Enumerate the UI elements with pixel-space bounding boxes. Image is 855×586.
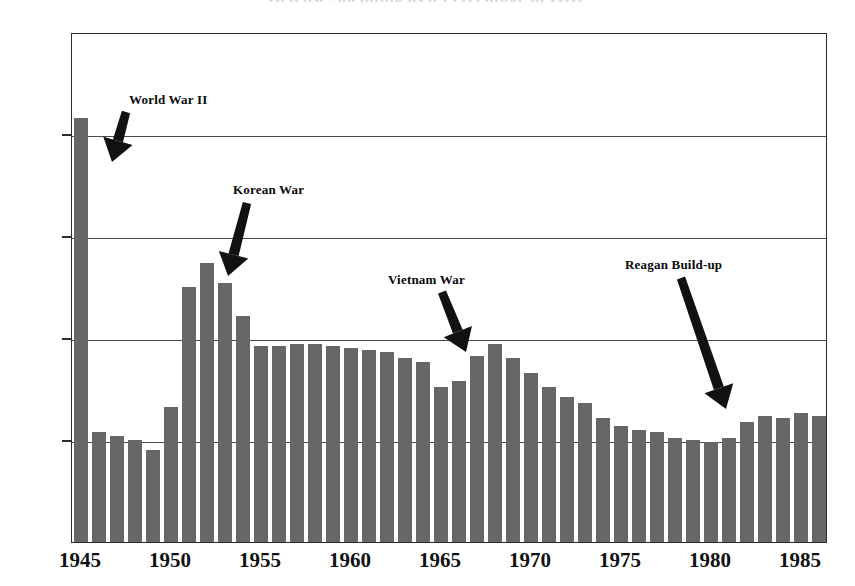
gridline-20 <box>72 136 826 137</box>
x-tick-label: 1965 <box>395 550 485 571</box>
bar <box>110 436 123 542</box>
bar <box>236 316 249 542</box>
bar <box>200 263 213 542</box>
bar <box>452 381 465 542</box>
chart-figure: Defense Spending as a Percentage of GDP … <box>0 0 855 586</box>
bar <box>398 358 411 542</box>
bar <box>182 287 195 542</box>
gridline-15 <box>72 238 826 239</box>
bar <box>560 397 573 542</box>
bar <box>308 344 321 542</box>
bar <box>812 416 825 542</box>
x-tick-label: 1955 <box>215 550 305 571</box>
y-tick-mark <box>62 338 71 340</box>
x-tick-label: 1945 <box>35 550 125 571</box>
bar <box>416 362 429 542</box>
bar <box>650 432 663 542</box>
bar <box>776 418 789 542</box>
bar <box>380 352 393 542</box>
bar <box>542 387 555 542</box>
bar <box>740 422 753 542</box>
bar <box>92 432 105 542</box>
x-tick-label: 1950 <box>125 550 215 571</box>
annotation-label: Korean War <box>233 182 304 198</box>
x-tick-label: 1980 <box>665 550 755 571</box>
chart-title: Defense Spending as a Percentage of GDP <box>0 0 855 2</box>
bar <box>290 344 303 542</box>
bar <box>524 373 537 542</box>
bar <box>254 346 267 542</box>
x-tick-label: 1985 <box>755 550 845 571</box>
x-tick-label: 1970 <box>485 550 575 571</box>
x-tick-label: 1975 <box>575 550 665 571</box>
bar <box>434 387 447 542</box>
bar <box>344 348 357 542</box>
bar <box>470 356 483 542</box>
annotation-label: World War II <box>129 92 208 108</box>
bar <box>74 118 87 542</box>
bar <box>488 344 501 542</box>
bar <box>578 403 591 542</box>
bar <box>272 346 285 542</box>
bar <box>146 450 159 542</box>
y-tick-mark <box>62 440 71 442</box>
bar <box>326 346 339 542</box>
bar <box>668 438 681 542</box>
annotation-label: Reagan Build-up <box>625 257 722 273</box>
bar <box>596 418 609 542</box>
bar <box>722 438 735 542</box>
bar <box>614 426 627 542</box>
bar <box>632 430 645 542</box>
bar <box>362 350 375 542</box>
bar <box>164 407 177 542</box>
bar <box>704 442 717 542</box>
annotation-label: Vietnam War <box>388 272 465 288</box>
y-tick-mark <box>62 134 71 136</box>
bar <box>758 416 771 542</box>
bar <box>686 440 699 542</box>
bar <box>218 283 231 542</box>
bar <box>128 440 141 542</box>
bar <box>794 413 807 542</box>
y-tick-mark <box>62 236 71 238</box>
plot-area <box>71 33 827 543</box>
bar <box>506 358 519 542</box>
x-tick-label: 1960 <box>305 550 395 571</box>
